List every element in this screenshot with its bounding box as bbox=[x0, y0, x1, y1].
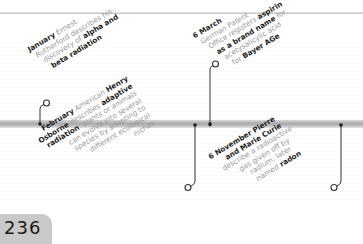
timeline-dot-mid bbox=[209, 124, 212, 127]
page-number-tab: 236 bbox=[0, 214, 52, 244]
connector-february bbox=[191, 125, 195, 186]
marker-circle-november bbox=[331, 185, 337, 191]
marker-circle-february bbox=[185, 185, 191, 191]
timeline-dot-february bbox=[193, 123, 197, 127]
connector-november bbox=[337, 125, 341, 186]
connector-march bbox=[210, 66, 213, 125]
timeline-dot-november bbox=[339, 123, 343, 127]
connector-january bbox=[40, 105, 44, 125]
marker-circle-january bbox=[44, 100, 50, 106]
page-number: 236 bbox=[4, 217, 41, 238]
